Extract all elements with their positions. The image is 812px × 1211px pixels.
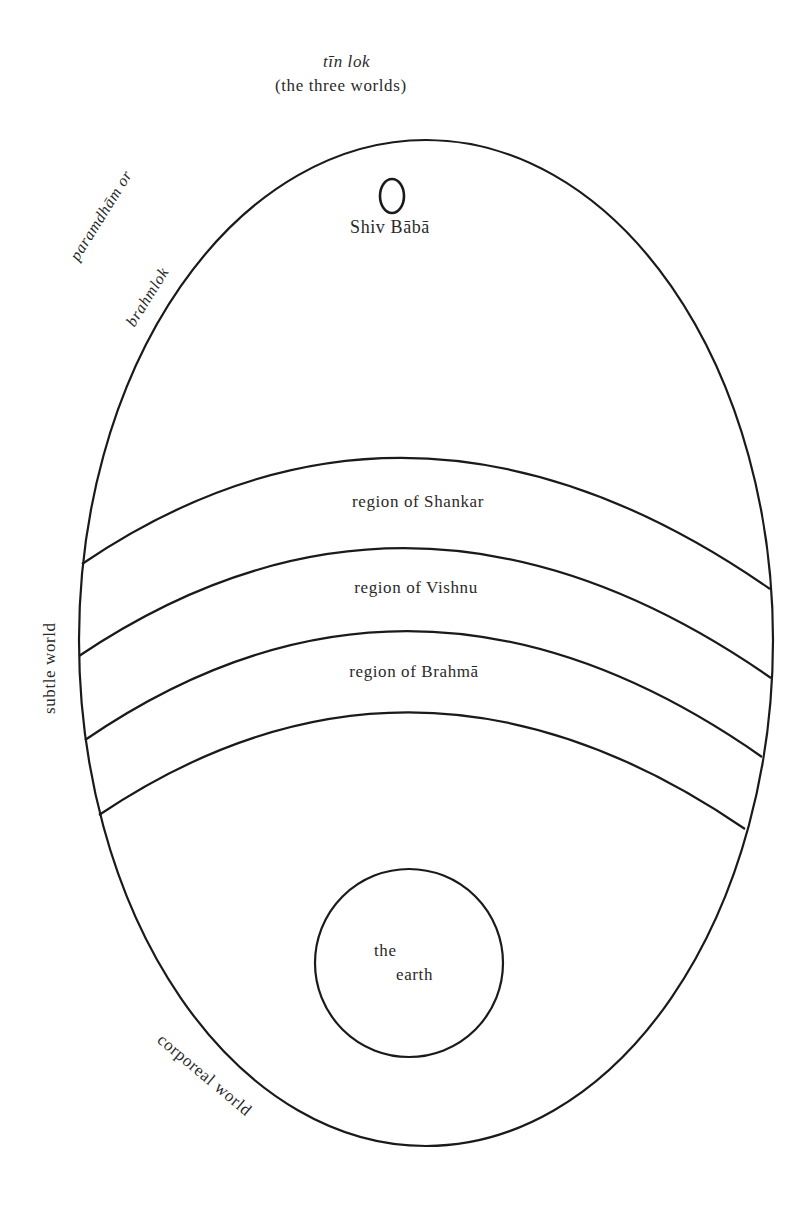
divider-arc-1: [82, 458, 770, 589]
region-brahma-label: region of Brahmā: [349, 662, 479, 682]
region-vishnu-label: region of Vishnu: [354, 578, 477, 598]
region-shankar-label: region of Shankar: [352, 492, 484, 512]
divider-arc-2: [79, 548, 771, 678]
earth-circle: [315, 869, 503, 1057]
shiv-baba-oval-icon: [380, 179, 404, 213]
divider-arc-4: [99, 712, 745, 829]
divider-arc-3: [85, 631, 762, 757]
title-term: tīn lok: [323, 52, 370, 72]
cosmic-egg-outline: [79, 140, 773, 1146]
title-gloss: (the three worlds): [275, 76, 407, 96]
earth-label-line2: earth: [396, 965, 433, 985]
shiv-baba-label: Shiv Bābā: [350, 217, 430, 238]
earth-label-line1: the: [374, 941, 397, 961]
subtle-world-label: subtle world: [40, 622, 60, 714]
